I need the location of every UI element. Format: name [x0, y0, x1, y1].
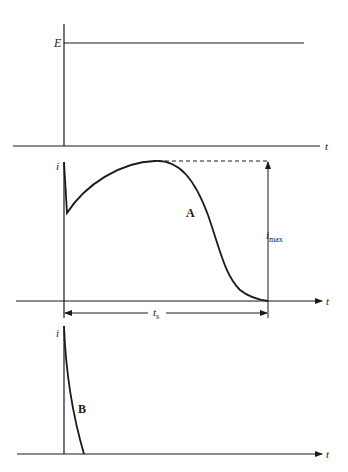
ts-label: ts [153, 306, 159, 321]
time-axis-label: t [326, 448, 330, 460]
curve-b [64, 326, 84, 454]
curve-a-label: A [186, 206, 195, 220]
curve-b-label: B [78, 402, 86, 416]
curve-a [64, 161, 268, 301]
time-axis-label: t [326, 295, 330, 307]
panel-current-b: i t B [17, 326, 330, 460]
current-axis-label: i [56, 327, 59, 339]
imax-label: imax [266, 229, 283, 244]
time-axis-label: t [325, 140, 329, 152]
panel-potential-step: E t [13, 24, 329, 152]
potential-label: E [53, 36, 62, 50]
panel-current-a: i t A imax ts [16, 160, 330, 321]
diagram-canvas: E t i t A imax ts i t B [0, 0, 348, 472]
current-axis-label: i [56, 160, 59, 172]
